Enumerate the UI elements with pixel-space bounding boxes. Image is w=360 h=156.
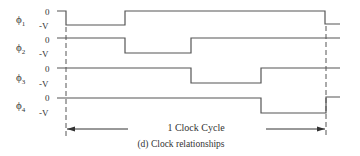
level-zero-phi4: 0 (45, 93, 50, 103)
arrowhead-left-icon (67, 127, 75, 132)
signal-label-phi4: ϕ4 (16, 99, 26, 114)
cycle-label: 1 Clock Cycle (167, 122, 225, 133)
level-zero-phi3: 0 (45, 64, 50, 74)
level-zero-phi1: 0 (45, 7, 50, 17)
waveform-phi2 (57, 38, 340, 53)
level-negv-phi2: -V (39, 49, 49, 59)
figure-caption: (d) Clock relationships (137, 139, 224, 150)
signal-label-phi3: ϕ3 (16, 71, 26, 86)
signal-label-phi2: ϕ2 (16, 41, 26, 56)
level-zero-phi2: 0 (45, 35, 50, 45)
arrowhead-right-icon (317, 127, 325, 132)
clock-timing-diagram: ϕ1 ϕ2 ϕ3 ϕ4 0 -V 0 -V 0 -V 0 -V 1 Clock … (0, 0, 360, 156)
level-negv-phi3: -V (39, 79, 49, 89)
waveform-phi1 (57, 11, 340, 25)
waveform-phi4 (57, 97, 340, 113)
level-negv-phi4: -V (39, 108, 49, 118)
waveform-phi3 (57, 68, 340, 83)
level-negv-phi1: -V (39, 21, 49, 31)
signal-label-phi1: ϕ1 (16, 13, 26, 28)
